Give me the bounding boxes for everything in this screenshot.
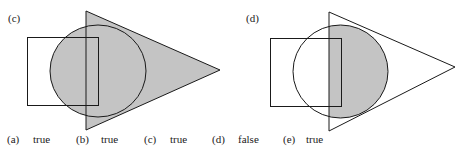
answer-value-c: true — [170, 134, 187, 145]
answer-letter-a: (a) — [7, 134, 19, 145]
answer-value-b: true — [101, 134, 118, 145]
diagram-d — [271, 12, 455, 131]
answer-value-d: false — [238, 134, 259, 145]
diagram-c — [28, 11, 221, 130]
diagram-label-d: (d) — [246, 13, 259, 24]
venn-diagrams — [0, 0, 455, 146]
answer-value-a: true — [33, 134, 50, 145]
answer-letter-e: (e) — [283, 134, 295, 145]
answer-value-e: true — [306, 134, 323, 145]
answer-letter-d: (d) — [212, 134, 225, 145]
diagram-label-c: (c) — [8, 13, 20, 24]
answer-letter-c: (c) — [144, 134, 156, 145]
answer-letter-b: (b) — [76, 134, 89, 145]
